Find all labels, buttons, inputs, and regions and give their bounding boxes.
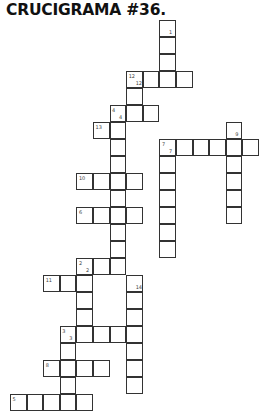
crossword-cell[interactable] xyxy=(126,377,143,394)
clue-number: 4 xyxy=(119,115,122,120)
crossword-cell[interactable] xyxy=(93,258,110,275)
crossword-cell[interactable] xyxy=(126,207,143,224)
clue-number: 11 xyxy=(46,278,52,283)
clue-number: 6 xyxy=(79,210,82,215)
crossword-cell[interactable] xyxy=(110,139,127,156)
crossword-cell[interactable] xyxy=(110,326,127,343)
crossword-cell[interactable] xyxy=(126,309,143,326)
crossword-cell[interactable] xyxy=(110,190,127,207)
crossword-cell[interactable] xyxy=(93,326,110,343)
crossword-cell[interactable] xyxy=(60,275,77,292)
crossword-cell[interactable] xyxy=(76,360,93,377)
clue-number: 4 xyxy=(112,108,115,113)
crossword-cell[interactable] xyxy=(226,207,243,224)
crossword-cell[interactable] xyxy=(159,71,176,88)
clue-number: 10 xyxy=(79,176,85,181)
crossword-cell[interactable] xyxy=(126,360,143,377)
crossword-cell[interactable] xyxy=(126,292,143,309)
clue-number: 12 xyxy=(136,81,142,86)
crossword-cell[interactable] xyxy=(93,173,110,190)
crossword-cell[interactable] xyxy=(126,105,143,122)
clue-number: 3 xyxy=(69,336,72,341)
clue-number: 14 xyxy=(136,285,142,290)
crossword-cell[interactable] xyxy=(110,241,127,258)
crossword-cell[interactable] xyxy=(209,139,226,156)
crossword-cell[interactable] xyxy=(126,326,143,343)
clue-number: 1 xyxy=(169,30,172,35)
crossword-cell[interactable] xyxy=(226,122,243,139)
crossword-grid: 1121244137791062211143385 xyxy=(0,0,267,418)
crossword-cell[interactable] xyxy=(60,394,77,411)
crossword-cell[interactable] xyxy=(126,343,143,360)
clue-number: 7 xyxy=(162,142,165,147)
clue-number: 5 xyxy=(13,397,16,402)
crossword-cell[interactable] xyxy=(193,139,210,156)
crossword-cell[interactable] xyxy=(126,88,143,105)
crossword-cell[interactable] xyxy=(76,309,93,326)
crossword-cell[interactable] xyxy=(126,173,143,190)
crossword-cell[interactable] xyxy=(76,292,93,309)
crossword-cell[interactable] xyxy=(27,394,44,411)
crossword-cell[interactable] xyxy=(143,71,160,88)
crossword-cell[interactable] xyxy=(110,207,127,224)
crossword-cell[interactable] xyxy=(60,377,77,394)
crossword-cell[interactable] xyxy=(76,326,93,343)
crossword-cell[interactable] xyxy=(159,173,176,190)
crossword-cell[interactable] xyxy=(159,20,176,37)
clue-number: 13 xyxy=(96,125,102,130)
clue-number: 3 xyxy=(62,329,65,334)
crossword-cell[interactable] xyxy=(159,224,176,241)
crossword-cell[interactable] xyxy=(110,258,127,275)
clue-number: 2 xyxy=(86,268,89,273)
crossword-cell[interactable] xyxy=(143,105,160,122)
crossword-cell[interactable] xyxy=(176,139,193,156)
crossword-cell[interactable] xyxy=(226,139,243,156)
crossword-cell[interactable] xyxy=(76,394,93,411)
crossword-cell[interactable] xyxy=(226,173,243,190)
crossword-cell[interactable] xyxy=(159,156,176,173)
crossword-cell[interactable] xyxy=(93,360,110,377)
crossword-cell[interactable] xyxy=(60,343,77,360)
crossword-cell[interactable] xyxy=(76,275,93,292)
crossword-cell[interactable] xyxy=(242,139,259,156)
crossword-cell[interactable] xyxy=(159,37,176,54)
crossword-cell[interactable] xyxy=(110,122,127,139)
crossword-cell[interactable] xyxy=(60,360,77,377)
crossword-cell[interactable] xyxy=(159,54,176,71)
crossword-cell[interactable] xyxy=(226,190,243,207)
crossword-cell[interactable] xyxy=(159,241,176,258)
crossword-cell[interactable] xyxy=(110,224,127,241)
clue-number: 9 xyxy=(235,132,238,137)
crossword-cell[interactable] xyxy=(93,207,110,224)
crossword-cell[interactable] xyxy=(176,71,193,88)
crossword-cell[interactable] xyxy=(226,156,243,173)
crossword-cell[interactable] xyxy=(159,207,176,224)
crossword-cell[interactable] xyxy=(110,173,127,190)
clue-number: 12 xyxy=(129,74,135,79)
clue-number: 2 xyxy=(79,261,82,266)
crossword-cell[interactable] xyxy=(110,156,127,173)
crossword-cell[interactable] xyxy=(43,394,60,411)
clue-number: 8 xyxy=(46,363,49,368)
clue-number: 7 xyxy=(169,149,172,154)
crossword-cell[interactable] xyxy=(159,190,176,207)
